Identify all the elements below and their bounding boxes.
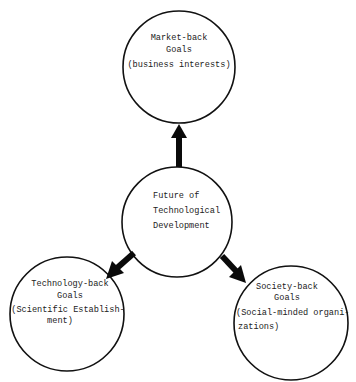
technology-node-subtitle-line-2: ment) bbox=[47, 316, 73, 326]
node-future-of-technological-development: Future of Technological Development bbox=[122, 167, 232, 277]
society-node-subtitle-line-2: zations) bbox=[238, 322, 279, 332]
society-node-title-line-1: Society-back bbox=[256, 282, 318, 292]
center-node-line-2: Technological bbox=[153, 206, 220, 216]
society-node-title-line-2: Goals bbox=[274, 293, 300, 303]
society-node-subtitle-line-1: (Social-minded organi- bbox=[236, 308, 349, 318]
technology-node-subtitle-line-1: (Scientific Establish- bbox=[11, 305, 124, 315]
arrow-up-head-icon bbox=[171, 124, 187, 138]
market-node-subtitle: (business interests) bbox=[127, 60, 230, 70]
market-node-title-line-1: Market-back bbox=[151, 33, 208, 43]
technology-node-title-line-2: Goals bbox=[57, 291, 83, 301]
arrow-to-technology bbox=[106, 253, 134, 279]
arrow-down-right-shaft bbox=[222, 256, 236, 271]
technology-node-title-line-1: Technology-back bbox=[31, 279, 108, 289]
arrow-down-left-shaft bbox=[117, 253, 134, 268]
arrow-to-market bbox=[171, 124, 187, 167]
diagram-canvas: Market-back Goals (business interests) F… bbox=[0, 0, 356, 382]
node-technology-back-goals: Technology-back Goals (Scientific Establ… bbox=[10, 257, 125, 371]
node-market-back-goals: Market-back Goals (business interests) bbox=[123, 11, 235, 123]
arrow-to-society bbox=[222, 256, 246, 283]
market-node-title-line-2: Goals bbox=[166, 45, 192, 55]
center-node-line-1: Future of bbox=[153, 191, 199, 201]
node-society-back-goals: Society-back Goals (Social-minded organi… bbox=[234, 266, 349, 380]
center-node-line-3: Development bbox=[153, 221, 210, 231]
